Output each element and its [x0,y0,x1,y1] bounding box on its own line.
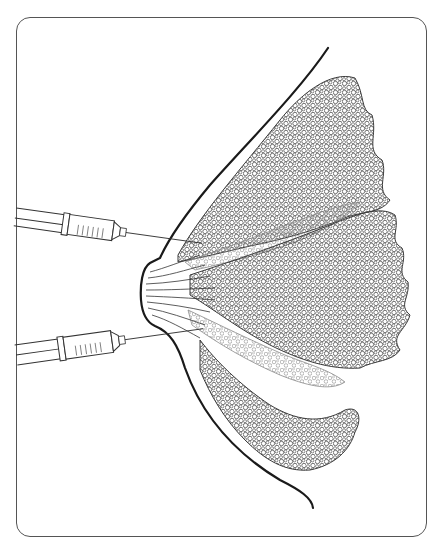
lobes [178,76,410,470]
breast-duct-illustration [0,0,448,550]
lower-syringe [14,317,205,367]
